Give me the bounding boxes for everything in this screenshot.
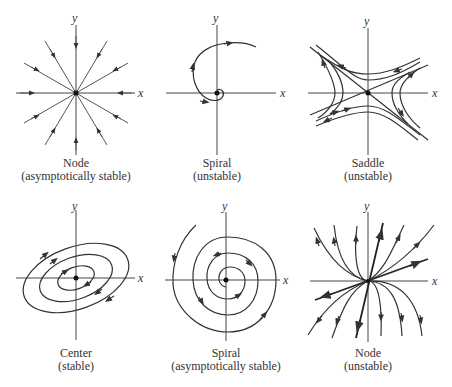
equilibrium-point (224, 278, 229, 283)
x-axis-label: x (137, 86, 144, 100)
panel-center: x y Center (stable) (14, 199, 144, 373)
y-axis-label: y (212, 11, 219, 25)
x-axis-label: x (431, 274, 438, 288)
equilibrium-point (215, 91, 220, 96)
panel-title: Saddle (352, 156, 385, 170)
panel-spiral-unstable: x y Spiral (unstable) (166, 11, 286, 183)
panel-subtitle: (unstable) (344, 169, 392, 183)
spiral-trajectory (193, 43, 256, 101)
panel-subtitle: (unstable) (193, 169, 241, 183)
panel-subtitle: (unstable) (344, 359, 392, 373)
x-axis-label: x (279, 86, 286, 100)
panel-node-stable: x y Node (asymptoti (16, 11, 144, 183)
panel-title: Spiral (212, 346, 241, 360)
panel-subtitle: (stable) (58, 359, 94, 373)
panel-title: Spiral (203, 156, 232, 170)
panel-subtitle: (asymptotically stable) (21, 169, 131, 183)
equilibrium-point (366, 91, 371, 96)
y-axis-label: y (221, 199, 228, 213)
y-axis-label: y (71, 199, 78, 213)
y-axis-label: y (71, 11, 78, 25)
equilibrium-point (366, 279, 370, 283)
panel-spiral-stable: x y Spiral (asymptotically stable) (165, 199, 289, 373)
y-axis-label: y (363, 199, 370, 213)
x-axis-label: x (137, 271, 144, 285)
phase-portrait-figure: x y Node (asymptoti (0, 0, 452, 387)
panel-node-unstable: x y (308, 199, 438, 373)
panel-saddle: x y Saddl (308, 14, 438, 183)
y-axis-label: y (363, 14, 370, 28)
panel-subtitle: (asymptotically stable) (171, 359, 281, 373)
equilibrium-point (74, 276, 79, 281)
panel-title: Node (63, 156, 89, 170)
x-axis-label: x (282, 273, 289, 287)
panel-title: Center (60, 346, 92, 360)
equilibrium-point (74, 91, 79, 96)
panel-title: Node (355, 346, 381, 360)
x-axis-label: x (431, 86, 438, 100)
